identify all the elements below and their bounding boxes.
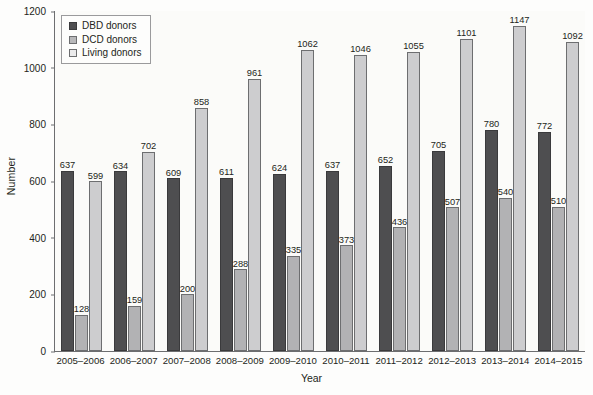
bar[interactable]: 611	[220, 178, 233, 351]
x-tick-label: 2012–2013	[426, 355, 479, 366]
bar-value-label: 1055	[403, 42, 424, 51]
y-tick: 0	[40, 346, 55, 357]
bar[interactable]: 540	[499, 198, 512, 351]
bar[interactable]: 507	[446, 207, 459, 351]
donor-numbers-bar-chart: Number 0 200 400 600 800 1000 1200 63712…	[0, 0, 593, 395]
bar-group: 609200858	[161, 11, 214, 351]
y-axis-label: Number	[5, 141, 17, 211]
bar-value-label: 540	[498, 188, 514, 197]
bar-value-label: 159	[127, 296, 143, 305]
bar-value-label: 772	[537, 122, 553, 131]
bar[interactable]: 599	[89, 181, 102, 351]
y-tick: 1200	[24, 6, 55, 17]
legend-label: DBD donors	[82, 21, 136, 31]
x-tick-label: 2009–2010	[266, 355, 319, 366]
bar-group: 7055071101	[426, 11, 479, 351]
y-tick: 400	[29, 232, 55, 243]
bar[interactable]: 1055	[407, 52, 420, 351]
bar[interactable]: 288	[234, 269, 247, 351]
legend-swatch-icon	[69, 49, 77, 57]
legend: DBD donors DCD donors Living donors	[61, 15, 151, 64]
bar[interactable]: 702	[142, 152, 155, 351]
bar-value-label: 652	[378, 156, 394, 165]
x-tick-label: 2007–2008	[160, 355, 213, 366]
bar[interactable]: 637	[326, 171, 339, 351]
y-tick: 1000	[24, 62, 55, 73]
bar[interactable]: 159	[128, 306, 141, 351]
bar[interactable]: 1092	[566, 42, 579, 351]
bar[interactable]: 335	[287, 256, 300, 351]
bar-value-label: 1062	[297, 40, 318, 49]
bar-group: 6243351062	[267, 11, 320, 351]
bar[interactable]: 200	[181, 294, 194, 351]
bar-group: 6524361055	[373, 11, 426, 351]
bar[interactable]: 609	[167, 178, 180, 351]
bar[interactable]: 1147	[513, 26, 526, 351]
bar-value-label: 637	[325, 161, 341, 170]
bar[interactable]: 1062	[301, 50, 314, 351]
legend-item-dcd: DCD donors	[69, 35, 141, 45]
bar-value-label: 373	[339, 236, 355, 245]
legend-label: Living donors	[82, 48, 141, 58]
bar-value-label: 1101	[457, 29, 477, 38]
x-tick-label: 2006–2007	[107, 355, 160, 366]
bar-group: 7725101092	[532, 11, 585, 351]
x-tick-label: 2011–2012	[373, 355, 426, 366]
bar[interactable]: 1101	[460, 39, 473, 351]
legend-item-dbd: DBD donors	[69, 21, 141, 31]
bar-value-label: 510	[551, 197, 567, 206]
bar-value-label: 1092	[562, 32, 583, 41]
bar-value-label: 1147	[510, 16, 530, 25]
y-tick: 600	[29, 176, 55, 187]
bar-value-label: 961	[247, 69, 263, 78]
bar[interactable]: 858	[195, 108, 208, 351]
y-tick: 800	[29, 119, 55, 130]
bar[interactable]: 373	[340, 245, 353, 351]
bar-value-label: 507	[445, 198, 461, 207]
bar-group: 7805401147	[479, 11, 532, 351]
bar-value-label: 288	[233, 260, 249, 269]
bar-value-label: 705	[431, 141, 447, 150]
bar-value-label: 858	[194, 98, 210, 107]
legend-item-living: Living donors	[69, 48, 141, 58]
bar-value-label: 609	[166, 169, 182, 178]
bar[interactable]: 634	[114, 171, 127, 351]
bar[interactable]: 510	[552, 207, 565, 352]
bar-value-label: 637	[60, 161, 76, 170]
bar[interactable]: 652	[379, 166, 392, 351]
bar[interactable]: 780	[485, 130, 498, 351]
bar[interactable]: 772	[538, 132, 551, 351]
bar[interactable]: 961	[248, 79, 261, 351]
x-tick-label: 2013–2014	[479, 355, 532, 366]
bar[interactable]: 128	[75, 315, 88, 351]
x-axis-ticks: 2005–20062006–20072007–20082008–20092009…	[54, 355, 585, 366]
bar-value-label: 599	[88, 172, 104, 181]
bar-value-label: 634	[113, 162, 129, 171]
bar-value-label: 128	[74, 305, 90, 314]
bar-value-label: 702	[141, 142, 157, 151]
bar[interactable]: 436	[393, 227, 406, 351]
x-tick-label: 2008–2009	[213, 355, 266, 366]
bar-group: 611288961	[214, 11, 267, 351]
x-axis-label: Year	[0, 372, 593, 384]
x-tick-label: 2010–2011	[319, 355, 372, 366]
legend-swatch-icon	[69, 36, 77, 44]
bar-value-label: 1046	[350, 45, 371, 54]
x-tick-label: 2005–2006	[54, 355, 107, 366]
legend-label: DCD donors	[82, 35, 137, 45]
bar-value-label: 200	[180, 285, 196, 294]
x-tick-label: 2014–2015	[532, 355, 585, 366]
legend-swatch-icon	[69, 22, 77, 30]
y-tick: 200	[29, 289, 55, 300]
bar[interactable]: 637	[61, 171, 74, 351]
bar[interactable]: 1046	[354, 55, 367, 351]
bar-value-label: 780	[484, 120, 500, 129]
bar-value-label: 335	[286, 246, 302, 255]
bar[interactable]: 705	[432, 151, 445, 351]
bar[interactable]: 624	[273, 174, 286, 351]
bar-value-label: 611	[219, 168, 234, 177]
bar-value-label: 624	[272, 164, 288, 173]
bar-group: 6373731046	[320, 11, 373, 351]
bar-value-label: 436	[392, 218, 408, 227]
